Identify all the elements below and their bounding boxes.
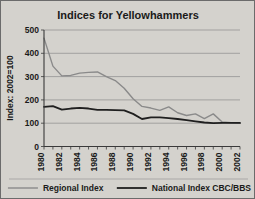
x-tick-label: 1988 xyxy=(107,152,117,171)
x-tick-label: 1984 xyxy=(72,152,82,171)
x-tick-label: 1990 xyxy=(125,152,135,171)
chart-container: Indices for Yellowhammers Index: 2002=10… xyxy=(0,0,255,199)
x-tick-label: 2002 xyxy=(232,152,242,171)
x-tick-label: 1998 xyxy=(196,152,206,171)
x-tick-label: 1986 xyxy=(89,152,99,171)
x-tick-label: 2000 xyxy=(214,152,224,171)
x-tick-label: 1980 xyxy=(36,152,46,171)
chart-title: Indices for Yellowhammers xyxy=(57,9,199,21)
x-tick-label: 1982 xyxy=(54,152,64,171)
x-tick-label: 1994 xyxy=(161,152,171,171)
y-axis-label: Index: 2002=100 xyxy=(5,55,15,121)
y-tick-label: 500 xyxy=(25,25,39,35)
x-tick-label: 1996 xyxy=(179,152,189,171)
y-tick-label: 200 xyxy=(25,95,39,105)
y-tick-label: 100 xyxy=(25,118,39,128)
legend-label: Regional Index xyxy=(43,183,104,193)
x-tick-label: 1992 xyxy=(143,152,153,171)
y-tick-label: 0 xyxy=(34,142,39,152)
chart-canvas: Indices for Yellowhammers Index: 2002=10… xyxy=(1,1,255,199)
y-tick-label: 300 xyxy=(25,72,39,82)
y-tick-label: 400 xyxy=(25,48,39,58)
legend-label: National Index CBC/BBS xyxy=(152,183,252,193)
